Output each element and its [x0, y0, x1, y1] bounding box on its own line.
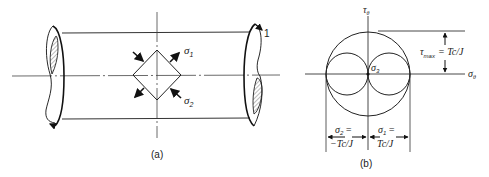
sigma1-label: σ1	[184, 44, 193, 58]
sigma1-result-value: Tc/J	[377, 138, 394, 149]
sigma1-arrow-down	[135, 88, 144, 97]
sigma2-result-value: −Tc/J	[330, 138, 354, 149]
caption-a: (a)	[151, 149, 163, 160]
sigma3-point	[366, 72, 369, 75]
sigma-axis-label: σθ	[468, 68, 476, 80]
figure-a-shaft: 1 σ1 σ2 (a)	[12, 12, 280, 160]
end-label-1: 1	[264, 28, 270, 39]
sigma1-result-label: σ1=	[378, 124, 395, 136]
sigma2-arrow-top	[133, 52, 143, 61]
torsion-stress-diagram: 1 σ1 σ2 (a) τθ σθ σ3 τmax= Tc/J	[0, 0, 489, 177]
shaft-top-edge	[62, 32, 250, 33]
tau-max-label: τmax= Tc/J	[420, 46, 464, 59]
caption-b: (b)	[360, 158, 372, 169]
sigma1-arrow-up	[170, 53, 179, 62]
sigma3-label: σ3	[371, 62, 380, 74]
figure-b-mohr-circle: τθ σθ σ3 τmax= Tc/J σ2= −Tc/J σ1= Tc/J (…	[305, 4, 476, 169]
right-section-hatch	[253, 78, 262, 114]
left-section-hatch	[50, 36, 58, 74]
sigma2-arrow-bottom	[171, 89, 181, 98]
tau-axis-label: τθ	[363, 4, 370, 16]
shaft-bottom-edge	[62, 118, 250, 119]
sigma2-label: σ2	[184, 94, 193, 108]
sigma2-result-label: σ2=	[335, 124, 352, 136]
shaft-axis	[12, 75, 280, 76]
